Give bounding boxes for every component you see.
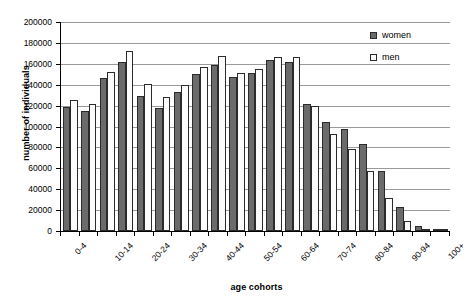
x-tick-mark — [153, 232, 154, 236]
cohort-group — [154, 22, 173, 231]
cohort-group — [135, 22, 154, 231]
x-tick-label-0-4: 0-4 — [74, 241, 89, 256]
y-tick-label: 200000 — [0, 18, 52, 27]
legend-label: women — [382, 31, 411, 40]
bar-women-60-64 — [285, 62, 293, 231]
cohort-group — [191, 22, 210, 231]
x-tick-mark — [116, 232, 117, 236]
cohort-group — [320, 22, 339, 231]
x-tick-mark — [79, 232, 80, 236]
x-axis-title: age cohorts — [60, 282, 453, 292]
bar-men-95-99 — [422, 229, 430, 231]
cohort-group — [80, 22, 99, 231]
cohort-group — [283, 22, 302, 231]
bar-men-85-89 — [385, 198, 393, 231]
y-tick-label: 180000 — [0, 39, 52, 48]
x-tick-mark — [190, 232, 191, 236]
bar-women-95-99 — [415, 226, 423, 231]
legend-swatch-icon-men — [370, 54, 377, 61]
x-tick-label-80-84: 80-84 — [373, 241, 395, 263]
bar-women-15-19 — [118, 62, 126, 231]
bar-men-30-34 — [181, 85, 189, 231]
bar-men-70-74 — [330, 134, 338, 231]
bar-men-100+ — [441, 229, 449, 231]
bar-men-45-49 — [237, 73, 245, 231]
cohort-group — [228, 22, 247, 231]
x-tick-mark — [282, 232, 283, 236]
bar-men-60-64 — [293, 57, 301, 231]
bar-men-75-79 — [348, 149, 356, 231]
x-tick-mark — [412, 232, 413, 236]
x-tick-mark — [227, 232, 228, 236]
legend-label: men — [382, 53, 400, 62]
cohort-group — [246, 22, 265, 231]
x-tick-mark — [375, 232, 376, 236]
x-tick-mark — [338, 232, 339, 236]
y-tick-label: 20000 — [0, 206, 52, 215]
bar-women-90-94 — [396, 207, 404, 231]
y-tick-label: 140000 — [0, 81, 52, 90]
x-tick-mark — [301, 232, 302, 236]
bar-men-90-94 — [404, 221, 412, 231]
legend-item-men: men — [370, 46, 442, 68]
cohort-group — [302, 22, 321, 231]
bar-women-65-69 — [303, 104, 311, 231]
bar-men-50-54 — [255, 69, 263, 231]
bar-women-5-9 — [81, 111, 89, 231]
x-tick-mark — [356, 232, 357, 236]
bar-men-0-4 — [70, 100, 78, 231]
y-tick-label: 40000 — [0, 185, 52, 194]
x-tick-mark — [393, 232, 394, 236]
x-tick-label-70-74: 70-74 — [336, 241, 358, 263]
bar-women-50-54 — [248, 73, 256, 231]
legend-item-women: women — [370, 24, 442, 46]
bar-men-55-59 — [274, 57, 282, 232]
cohort-group — [172, 22, 191, 231]
x-tick-mark — [319, 232, 320, 236]
x-tick-mark — [208, 232, 209, 236]
bar-women-80-84 — [359, 144, 367, 231]
cohort-group — [117, 22, 136, 231]
x-tick-mark — [264, 232, 265, 236]
bar-men-25-29 — [163, 97, 171, 231]
y-tick-label: 120000 — [0, 102, 52, 111]
bar-men-65-69 — [311, 106, 319, 231]
bar-women-45-49 — [229, 77, 237, 231]
x-tick-label-10-14: 10-14 — [113, 241, 135, 263]
y-tick-label: 80000 — [0, 143, 52, 152]
bar-men-20-24 — [144, 84, 152, 231]
bar-men-80-84 — [367, 171, 375, 231]
bar-men-5-9 — [89, 104, 97, 231]
x-tick-label-60-64: 60-64 — [299, 241, 321, 263]
cohort-group — [339, 22, 358, 231]
x-tick-mark — [60, 232, 61, 236]
bar-men-15-19 — [126, 51, 134, 231]
cohort-group — [98, 22, 117, 231]
x-tick-mark — [245, 232, 246, 236]
bar-women-10-14 — [100, 78, 108, 231]
bar-men-10-14 — [107, 72, 115, 231]
cohort-group — [209, 22, 228, 231]
bar-women-75-79 — [341, 129, 349, 231]
x-tick-label-30-34: 30-34 — [188, 241, 210, 263]
bar-women-70-74 — [322, 122, 330, 231]
y-tick-label: 160000 — [0, 60, 52, 69]
bar-women-100+ — [433, 229, 441, 231]
x-tick-label-40-44: 40-44 — [225, 241, 247, 263]
x-tick-label-90-94: 90-94 — [410, 241, 432, 263]
x-tick-mark — [449, 232, 450, 236]
x-tick-mark — [97, 232, 98, 236]
bar-women-40-44 — [211, 65, 219, 231]
x-tick-label-20-24: 20-24 — [151, 241, 173, 263]
y-tick-label: 60000 — [0, 164, 52, 173]
bar-women-0-4 — [63, 107, 71, 231]
legend-swatch-icon-women — [370, 32, 377, 39]
x-tick-label-50-54: 50-54 — [262, 241, 284, 263]
bar-women-35-39 — [192, 74, 200, 231]
cohort-group — [61, 22, 80, 231]
bar-men-40-44 — [218, 56, 226, 231]
cohort-group — [265, 22, 284, 231]
y-tick-label: 100000 — [0, 123, 52, 132]
y-tick-label: 0 — [0, 227, 52, 236]
bar-women-55-59 — [266, 60, 274, 231]
